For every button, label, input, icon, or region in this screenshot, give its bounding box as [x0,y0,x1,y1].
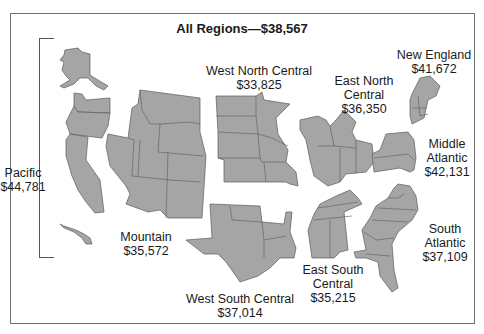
region-west-south-central [186,204,296,282]
label-mountain: Mountain $35,572 [116,230,176,258]
ma-states [372,132,416,172]
label-pacific: Pacific $44,781 [0,166,46,194]
label-new-england: New England $41,672 [394,48,474,76]
state-hawaii [60,224,92,244]
ne-states [410,76,440,124]
label-west-north-central: West North Central $33,825 [204,64,314,92]
mountain-states [106,90,206,218]
region-mountain [106,90,206,218]
region-pacific [60,48,110,244]
label-middle-atlantic: Middle Atlantic $42,131 [420,137,474,179]
state-california [66,134,104,213]
wnc-states [216,92,298,186]
region-east-south-central [308,190,362,258]
enc-states [300,110,374,186]
esc-states [308,190,362,258]
label-south-atlantic: South Atlantic $37,109 [418,222,472,264]
region-new-england [410,76,440,124]
state-alaska [60,48,108,90]
wsc-states [186,204,296,282]
region-east-north-central [300,110,374,186]
label-east-north-central: East North Central $36,350 [324,74,404,116]
label-west-south-central: West South Central $37,014 [180,292,300,320]
state-washington [74,93,110,113]
label-east-south-central: East South Central $35,215 [298,263,368,305]
region-west-north-central [216,92,298,186]
region-middle-atlantic [372,132,416,172]
